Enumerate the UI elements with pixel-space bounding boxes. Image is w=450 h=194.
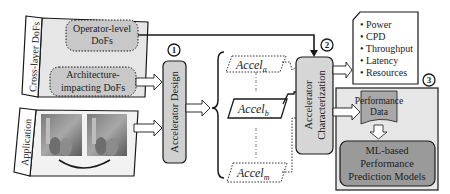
metric-resources: Resources [366,67,407,78]
accel-b-candidate: Accelb [228,99,287,118]
arrow-application-to-design [134,120,162,136]
step-1-number: 1 [172,45,177,55]
operator-to-characterization-line [138,35,314,52]
svg-text:• Resources: • Resources [360,67,407,78]
operator-dofs-line2: DoFs [91,35,113,46]
svg-text:Accelb: Accelb [237,102,269,118]
accel-m-base: Accel [236,166,264,180]
ml-model-line3: Prediction Models [348,171,425,182]
metric-latency: Latency [366,55,398,66]
accel-b-base: Accel [237,102,265,116]
accel-m-sub: m [264,173,270,182]
step-3-number: 3 [427,75,432,85]
output-image [87,114,127,156]
accel-m-candidate: Accelm [227,163,287,182]
arrow-to-metrics [333,62,352,78]
architecture-dofs-line1: Architecture- [66,69,119,80]
step-2-number: 2 [325,40,330,50]
performance-data-line2: Data [370,107,389,117]
accelerator-design-label: Accelerator Design [169,71,180,153]
svg-text:• Power: • Power [360,19,392,30]
architecture-dofs-line2: impacting DoFs [61,82,125,93]
performance-data-line1: Performance [355,96,404,106]
characterization-block: 2 Accelerator Characterization [296,39,333,154]
characterization-line2: Characterization [316,70,327,140]
input-image [41,114,82,156]
accelerator-design-block: 1 Accelerator Design [163,44,186,163]
metrics-list: • Power • CPD • Throughput • Latency • R… [353,12,418,84]
prediction-panel: Performance Data ML-based Performance Pr… [336,88,438,190]
svg-text:• Throughput: • Throughput [360,43,413,54]
operator-dofs-line1: Operator-level [73,23,131,34]
arrow-design-to-accelerators [186,100,210,116]
svg-text:Accela: Accela [235,58,267,74]
metric-throughput: Throughput [366,43,413,54]
arrowhead-icon [310,50,318,57]
accel-a-candidate: Accela [226,56,286,74]
characterization-line1: Accelerator [303,80,314,129]
svg-text:• Latency: • Latency [360,55,398,66]
ml-model-line2: Performance [360,158,414,169]
application-panel: Application [14,108,138,176]
accel-a-sub: a [263,65,267,74]
svg-text:• CPD: • CPD [360,31,385,42]
ml-model-line1: ML-based [365,145,409,156]
accel-b-sub: b [265,109,269,118]
accel-a-base: Accel [235,58,263,72]
diagram-canvas: Cross-layer DoFs Operator-level DoFs Arc… [0,0,450,194]
metric-power: Power [366,19,392,30]
brace-icon [212,52,224,178]
metric-cpd: CPD [366,31,385,42]
cross-layer-panel: Cross-layer DoFs Operator-level DoFs Arc… [22,16,148,97]
